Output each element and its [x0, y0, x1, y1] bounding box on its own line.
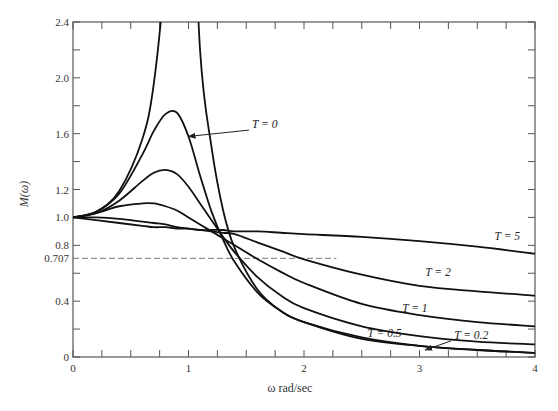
x-tick-label: 2 [301, 362, 307, 374]
curve-t0.5 [73, 170, 535, 345]
curve-annotations: T = 0T = 5T = 2T = 1T = 0.5T = 0.2 [189, 118, 521, 350]
curve-label: T = 2 [425, 266, 451, 278]
x-axis-title: ω rad/sec [268, 381, 313, 395]
curve-t0.2 [73, 111, 535, 353]
curve-label: T = 0.2 [454, 329, 488, 341]
y-tick-label: 1.0 [55, 211, 69, 223]
y-tick-label: 0.707 [44, 252, 69, 264]
y-tick-label: 0.8 [55, 239, 69, 251]
curves [73, 0, 535, 353]
curve-label: T = 0 [252, 118, 278, 130]
y-tick-label: 1.2 [55, 184, 69, 196]
y-tick-label: 0 [64, 351, 70, 363]
curve-t0 [73, 0, 535, 353]
y-axis-title: M(ω) [17, 181, 31, 208]
curve-label: T = 5 [495, 230, 521, 242]
y-tick-label: 0.4 [55, 295, 69, 307]
plot-frame [73, 22, 535, 357]
y-tick-label: 2.4 [55, 16, 69, 28]
x-tick-label: 0 [70, 362, 76, 374]
curve-label: T = 0.5 [368, 327, 402, 339]
curve-t5 [73, 217, 535, 253]
x-tick-label: 4 [532, 362, 538, 374]
y-tick-label: 1.6 [55, 128, 69, 140]
x-tick-label: 3 [417, 362, 423, 374]
curve-label: T = 1 [402, 302, 427, 314]
x-tick-label: 1 [186, 362, 192, 374]
frequency-response-chart: 0123400.40.7070.81.01.21.62.02.4 T = 0T … [0, 0, 558, 411]
axis-ticks [73, 22, 535, 357]
y-tick-label: 2.0 [55, 72, 69, 84]
